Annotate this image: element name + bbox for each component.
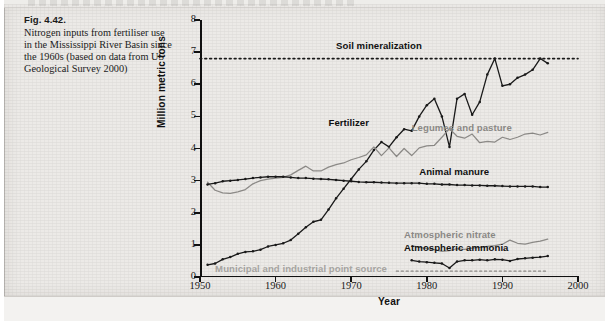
x-axis-title: Year xyxy=(200,296,578,307)
series-label-soil-mineralization: Soil mineralization xyxy=(336,40,422,51)
y-tick-label-7: 7 xyxy=(166,45,196,56)
series-label-municipal-and-industrial-point-source: Municipal and industrial point source xyxy=(215,263,387,274)
x-tick-label-1950: 1950 xyxy=(177,280,223,291)
series-line-2 xyxy=(208,129,548,194)
series-line-5 xyxy=(412,256,548,268)
y-tick-label-2: 2 xyxy=(166,206,196,217)
x-tick-label-1970: 1970 xyxy=(328,280,374,291)
x-tick-label-1960: 1960 xyxy=(253,280,299,291)
figure-caption-text: Nitrogen inputs from fertiliser use in t… xyxy=(24,27,174,75)
chart-plot-area: 012345678 195019601970198019902000 Milli… xyxy=(200,20,578,277)
figure-caption: Fig. 4.42. Nitrogen inputs from fertilis… xyxy=(24,14,174,75)
series-line-1 xyxy=(208,59,548,265)
series-label-fertilizer: Fertilizer xyxy=(329,117,370,128)
y-axis-title: Million metric tons xyxy=(156,36,167,128)
y-tick-label-4: 4 xyxy=(166,142,196,153)
y-tick-label-1: 1 xyxy=(166,238,196,249)
figure-page: Fig. 4.42. Nitrogen inputs from fertilis… xyxy=(0,0,613,324)
cut-off-text-line xyxy=(28,0,358,6)
chart-series-svg xyxy=(200,20,578,277)
x-tick-label-2000: 2000 xyxy=(555,280,601,291)
series-markers-1 xyxy=(206,57,549,266)
y-tick-label-5: 5 xyxy=(166,109,196,120)
page-right-edge xyxy=(605,0,613,324)
series-label-atmospheric-nitrate: Atmospheric nitrate xyxy=(404,229,496,240)
series-label-animal-manure: Animal manure xyxy=(419,166,489,177)
y-tick-label-3: 3 xyxy=(166,174,196,185)
x-tick-label-1980: 1980 xyxy=(404,280,450,291)
figure-number: Fig. 4.42. xyxy=(24,14,174,26)
y-tick-label-8: 8 xyxy=(166,13,196,24)
series-label-legumes-and-pasture: Legumes and pasture xyxy=(412,122,512,133)
series-label-atmospheric-ammonia: Atmospheric ammonia xyxy=(404,242,508,253)
page-left-edge xyxy=(0,0,4,324)
x-tick-label-1990: 1990 xyxy=(479,280,525,291)
y-tick-label-6: 6 xyxy=(166,77,196,88)
